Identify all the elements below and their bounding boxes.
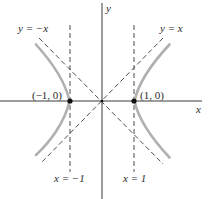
vertex-point-1 [131,98,136,103]
asymptote-label-y-equals-x: y = x [160,23,183,34]
vertex-label-neg-1: (−1, 0) [32,90,62,101]
vertex-point-neg-1 [67,98,72,103]
y-axis-label: y [106,3,111,14]
x-axis-label: x [196,104,201,115]
origin-point [101,100,104,103]
vline-label-1: x = 1 [123,173,146,184]
asymptote-label-y-equals-neg-x: y = −x [18,23,48,34]
vertex-label-1: (1, 0) [140,90,164,101]
vline-label-neg-1: x = −1 [54,173,85,184]
